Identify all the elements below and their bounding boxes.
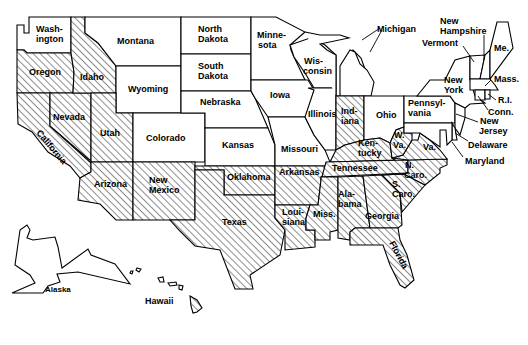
label-michigan: Michigan	[377, 24, 416, 34]
label-new-york-2: York	[444, 85, 464, 95]
label-pennsylvania-2: vania	[408, 108, 432, 118]
label-virginia: Va.	[423, 142, 436, 152]
label-alaska: Alaska	[45, 285, 71, 294]
label-nebraska: Nebraska	[200, 97, 242, 107]
label-iowa: Iowa	[270, 90, 291, 100]
label-wisconsin-2: consin	[303, 66, 332, 76]
label-north-dakota-2: Dakota	[198, 34, 229, 44]
label-nevada: Nevada	[53, 112, 86, 122]
label-hawaii: Hawaii	[145, 296, 174, 306]
state-michigan-lower[interactable]	[340, 50, 374, 96]
label-missouri: Missouri	[281, 144, 318, 154]
label-north-dakota: North	[198, 24, 222, 34]
label-north-carolina-2: Caro.	[404, 170, 427, 180]
label-new-hampshire-2: Hampshire	[440, 26, 487, 36]
state-hawaii[interactable]	[130, 268, 202, 313]
label-illinois: Illinois	[308, 109, 337, 119]
us-map: Wash- ington Oregon California Idaho Nev…	[0, 0, 528, 345]
state-alaska[interactable]	[12, 225, 130, 293]
label-kentucky-2: tucky	[358, 148, 382, 158]
label-alabama: Ala-	[338, 189, 355, 199]
label-indiana-2: iana	[341, 116, 360, 126]
label-south-carolina-2: Caro.	[392, 189, 415, 199]
label-mississippi: Miss.	[313, 209, 336, 219]
label-rhode-island: R.I.	[498, 95, 512, 105]
label-washington: Wash-	[36, 24, 63, 34]
label-maryland: Maryland	[465, 156, 505, 166]
label-kansas: Kansas	[222, 140, 254, 150]
label-new-mexico: New	[149, 175, 169, 185]
label-minnesota-2: sota	[258, 40, 278, 50]
label-south-carolina: S.	[392, 179, 401, 189]
state-new-jersey[interactable]	[455, 103, 465, 135]
label-massachusetts: Mass.	[494, 74, 519, 84]
label-louisiana-2: siana	[282, 217, 306, 227]
label-pennsylvania: Pennsyl-	[408, 98, 446, 108]
label-georgia: Georgia	[365, 211, 400, 221]
label-arkansas: Arkansas	[279, 167, 320, 177]
label-utah: Utah	[100, 128, 120, 138]
label-wyoming: Wyoming	[128, 84, 168, 94]
label-colorado: Colorado	[146, 133, 186, 143]
label-new-mexico-2: Mexico	[149, 185, 180, 195]
label-wisconsin: Wis-	[304, 56, 323, 66]
label-kentucky: Ken-	[358, 138, 378, 148]
label-oklahoma: Oklahoma	[227, 172, 272, 182]
label-arizona: Arizona	[94, 179, 128, 189]
label-oregon: Oregon	[29, 67, 61, 77]
label-new-hampshire: New	[440, 16, 460, 26]
label-new-york: New	[444, 75, 464, 85]
label-west-virginia-2: Va.	[393, 140, 406, 150]
label-delaware: Delaware	[468, 140, 508, 150]
label-south-dakota-2: Dakota	[198, 71, 229, 81]
label-alabama-2: bama	[338, 199, 363, 209]
label-west-virginia: W.	[394, 130, 405, 140]
label-north-carolina: N.	[405, 160, 414, 170]
label-indiana: Ind-	[341, 106, 358, 116]
label-maine: Me.	[494, 43, 509, 53]
label-texas: Texas	[222, 217, 247, 227]
label-south-dakota: South	[198, 61, 224, 71]
label-washington-2: ington	[36, 34, 64, 44]
label-new-jersey-2: Jersey	[479, 126, 508, 136]
label-idaho: Idaho	[80, 72, 105, 82]
label-vermont: Vermont	[422, 38, 458, 48]
label-ohio: Ohio	[376, 110, 397, 120]
label-tennessee: Tennessee	[332, 163, 378, 173]
label-louisiana: Loui-	[282, 207, 304, 217]
label-montana: Montana	[117, 36, 155, 46]
label-minnesota: Minne-	[257, 30, 286, 40]
label-new-jersey: New	[480, 116, 500, 126]
